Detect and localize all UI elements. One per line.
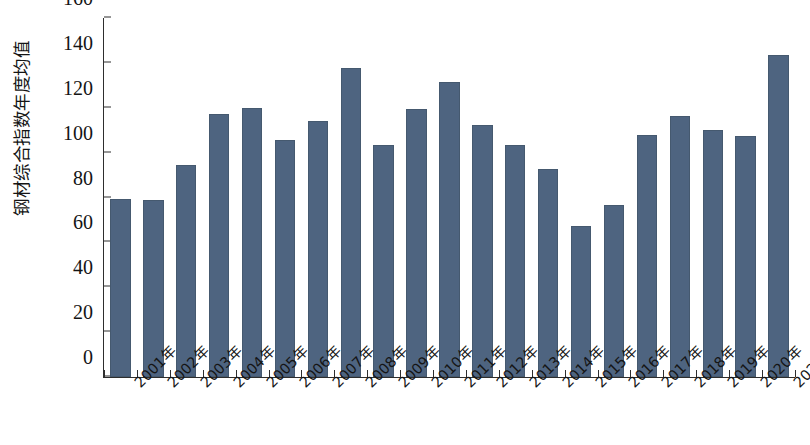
bar-series [104,18,795,377]
x-axis-tick-label: 2005年 [264,380,274,390]
x-axis-tick-label: 2015年 [593,380,603,390]
x-axis-tick-label: 2016年 [626,380,636,390]
x-axis-tick-label: 2019年 [725,380,735,390]
plot-area: 020406080100120140160 [103,18,795,378]
y-axis-tick-label: 20 [73,302,104,322]
bar [768,55,788,377]
x-axis-tick-label: 2021年 [791,380,801,390]
x-axis-tick-label: 2017年 [659,380,669,390]
bar [670,116,690,377]
bar [308,121,328,377]
x-axis-tick-label: 2009年 [396,380,406,390]
x-axis-tick-label: 2001年 [132,380,142,390]
y-axis-tick-label: 160 [63,0,104,8]
bar [637,135,657,377]
bar-chart-figure: 钢材综合指数年度均值 020406080100120140160 2001年20… [0,0,810,445]
x-axis-tick-labels: 2001年2002年2003年2004年2005年2006年2007年2008年… [103,380,795,445]
bar [242,108,262,377]
y-axis-tick-label: 100 [63,123,104,143]
x-axis-tick-label: 2013年 [527,380,537,390]
y-axis-tick-label: 40 [73,257,104,277]
x-axis-tick-label: 2003年 [198,380,208,390]
bar [703,130,723,377]
bar [472,125,492,377]
x-axis-tick-label: 2008年 [363,380,373,390]
x-axis-tick-label: 2002年 [165,380,175,390]
y-axis-tick-label: 0 [83,347,104,367]
bar [439,82,459,377]
bar [373,145,393,377]
x-axis-tick-label: 2020年 [758,380,768,390]
x-axis-tick-label: 2006年 [297,380,307,390]
bar [538,169,558,377]
bar [176,165,196,377]
x-axis-tick-label: 2014年 [560,380,570,390]
y-axis-title: 钢材综合指数年度均值 [8,0,36,258]
x-axis-tick-label: 2004年 [231,380,241,390]
bar [735,136,755,377]
x-axis-tick-label: 2007年 [330,380,340,390]
x-axis-tick-label: 2012年 [494,380,504,390]
y-axis-tick-label: 80 [73,168,104,188]
x-axis-tick-label: 2010年 [429,380,439,390]
bar [110,199,130,377]
y-axis-tick-label: 120 [63,78,104,98]
bar [209,114,229,377]
x-axis-tick-label: 2018年 [692,380,702,390]
x-axis-tick-label: 2011年 [462,380,472,390]
y-axis-tick-label: 60 [73,212,104,232]
bar [341,68,361,377]
y-axis-tick-label: 140 [63,33,104,53]
bar [406,109,426,377]
bar [275,140,295,377]
bar [505,145,525,377]
